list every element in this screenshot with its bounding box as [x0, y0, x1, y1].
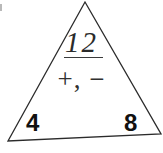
triangle-outline: [0, 0, 163, 153]
triangle-shape: [8, 2, 161, 141]
scan-edge-artifact: [0, 4, 2, 11]
fact-family-triangle-figure: 12 +, − 4 8: [0, 0, 163, 153]
